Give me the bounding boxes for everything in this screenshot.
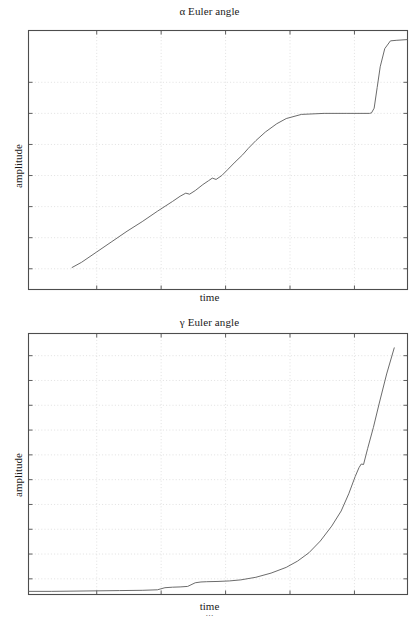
figure-gamma-euler-angle: γ Euler angle amplitude time	[0, 307, 419, 617]
plot-frame-alpha	[29, 31, 408, 290]
data-series-gamma-gamma	[29, 348, 395, 592]
page-caption: …	[0, 609, 419, 617]
axis-ticks-gamma	[29, 334, 408, 595]
grid-lines-gamma	[29, 334, 408, 595]
data-series-alpha-alpha	[72, 40, 407, 268]
x-axis-label-alpha: time	[0, 291, 419, 304]
axis-ticks-alpha	[29, 31, 408, 290]
plot-area-alpha	[0, 0, 419, 310]
plot-frame-gamma	[29, 334, 408, 595]
grid-lines-alpha	[29, 31, 408, 290]
plot-area-gamma	[0, 307, 419, 617]
figure-alpha-euler-angle: α Euler angle amplitude time	[0, 0, 419, 310]
